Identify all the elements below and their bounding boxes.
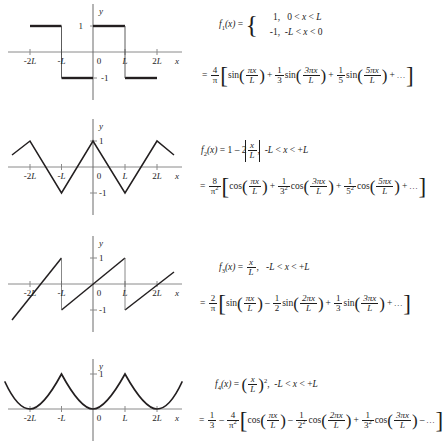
series-f2: = 8π2[cos(πxL)+132cos(3πxL)+152cos(5πxL)… (200, 177, 426, 197)
series-f1: = 4π[sin(πxL)+13sin(3πxL)+15sin(5πxL)+..… (202, 66, 414, 86)
x-ticklabel-L: L (121, 413, 127, 423)
x-ticklabel-L: L (121, 56, 127, 66)
definition-f4: f4(x) = (xL)2, -L < x < +L (215, 375, 318, 395)
formula-parabolic-wave: f4(x) = (xL)2, -L < x < +L = 13–4π2[cos(… (197, 349, 438, 448)
x-ticklabel-0: 0 (97, 56, 102, 66)
formula-square-wave: f1(x) = { 1, 0 < x < L -1, -L < x < 0 = … (197, 0, 438, 112)
x-axis-label: x (174, 288, 179, 298)
series-f3: = 2π[sin(πxL)–12sin(2πxL)+13sin(3πxL)+..… (200, 294, 411, 314)
y-ticklabel--1: -1 (99, 305, 107, 315)
x-axis-label: x (174, 413, 179, 423)
figure-row-triangle-wave: -2L -L 0 L 2L x y 1 -1 f2(x) = 1 – 2xL, … (0, 115, 438, 227)
x-axis-label: x (174, 171, 179, 181)
x-ticklabel--2L: -2L (24, 171, 37, 181)
y-axis-label: y (98, 121, 103, 131)
x-ticklabel--2L: -2L (24, 413, 37, 423)
x-ticklabel-L: L (121, 288, 127, 298)
graph-square-wave: -2L -L 0 L 2L x y 1 -1 (0, 0, 205, 112)
x-ticklabel--2L: -2L (24, 56, 37, 66)
graph-triangle-wave: -2L -L 0 L 2L x y 1 -1 (0, 115, 205, 227)
figure-row-square-wave: -2L -L 0 L 2L x y 1 -1 f1(x) = { 1, 0 < … (0, 0, 438, 112)
series-f4: = 13–4π2[cos(πxL)–122cos(2πxL)+132cos(3π… (199, 411, 443, 431)
x-ticklabel-0: 0 (97, 171, 102, 181)
x-axis-label: x (174, 56, 179, 66)
y-ticklabel-1: 1 (79, 21, 84, 31)
formula-sawtooth-wave: f3(x) = xL, -L < x < +L = 2π[sin(πxL)–12… (197, 232, 438, 344)
definition-f2: f2(x) = 1 – 2xL, -L < x < +L (201, 141, 308, 161)
y-ticklabel--1: -1 (101, 73, 109, 83)
x-ticklabel-2L: 2L (152, 288, 162, 298)
x-ticklabel--L: -L (57, 56, 65, 66)
x-ticklabel-L: L (121, 171, 127, 181)
y-ticklabel-1: 1 (99, 253, 104, 263)
definition-f1: f1(x) = { 1, 0 < x < L -1, -L < x < 0 (219, 10, 322, 39)
y-ticklabel--1: -1 (99, 188, 107, 198)
graph-sawtooth-wave: -2L -L 0 L 2L x y 1 -1 (0, 232, 205, 344)
x-ticklabel-2L: 2L (152, 56, 162, 66)
graph-parabolic-wave: -2L -L 0 L 2L x y 1 (0, 349, 205, 448)
figure-row-parabolic-wave: -2L -L 0 L 2L x y 1 f4(x) = (xL)2, -L < … (0, 349, 438, 448)
y-ticklabel-1: 1 (99, 369, 104, 379)
y-ticklabel-1: 1 (99, 136, 104, 146)
x-ticklabel--2L: -2L (24, 288, 37, 298)
x-ticklabel--L: -L (57, 413, 65, 423)
x-ticklabel--L: -L (57, 288, 65, 298)
x-ticklabel-2L: 2L (152, 413, 162, 423)
y-axis-label: y (98, 6, 103, 16)
x-ticklabel-0: 0 (97, 288, 102, 298)
definition-f3: f3(x) = xL, -L < x < +L (219, 258, 310, 278)
x-ticklabel-0: 0 (97, 413, 102, 423)
formula-triangle-wave: f2(x) = 1 – 2xL, -L < x < +L = 8π2[cos(π… (197, 115, 438, 227)
figure-row-sawtooth-wave: -2L -L 0 L 2L x y 1 -1 f3(x) = xL, -L < … (0, 232, 438, 344)
x-ticklabel--L: -L (57, 171, 65, 181)
x-ticklabel-2L: 2L (152, 171, 162, 181)
y-axis-label: y (98, 238, 103, 248)
